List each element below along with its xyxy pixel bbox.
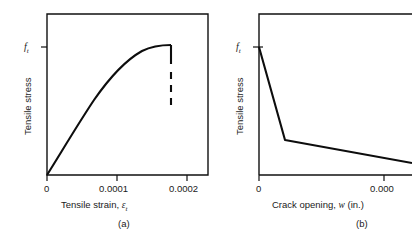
panel-b-caption: (b) — [356, 219, 368, 229]
panel-a-x-tick-label-0: 0 — [44, 184, 49, 194]
panel-a-y-axis-title: Tensile stress — [22, 77, 33, 135]
panel-a-axes-frame — [47, 14, 208, 175]
panel-b: ft Tensile stress 0 0.000 Crack opening,… — [212, 0, 412, 234]
panel-b-x-tick-label-1: 0.000 — [370, 184, 394, 194]
panel-b-axes-frame — [259, 14, 412, 175]
panel-a-y-tick-label-ft: ft — [24, 41, 29, 55]
panel-a-x-tick-label-1: 0.0001 — [99, 184, 128, 194]
panel-a-curve-ascending — [47, 45, 171, 175]
figure-container: ft Tensile stress 0 0.0001 0.0002 Tensil… — [0, 0, 412, 234]
panel-b-x-tick-label-0: 0 — [256, 184, 261, 194]
panel-b-curve-softening — [259, 47, 412, 163]
panel-b-x-axis-title: Crack opening, w (in.) — [272, 200, 364, 211]
panel-b-y-axis-title: Tensile stress — [234, 77, 245, 135]
panel-a-caption: (a) — [118, 219, 130, 229]
panel-a-x-axis-title: Tensile strain, εt — [61, 200, 127, 213]
panel-a: ft Tensile stress 0 0.0001 0.0002 Tensil… — [0, 0, 212, 234]
panel-a-x-tick-label-2: 0.0002 — [169, 184, 198, 194]
panel-b-y-tick-label-ft: ft — [236, 41, 241, 55]
epsilon-symbol: εt — [122, 200, 128, 210]
